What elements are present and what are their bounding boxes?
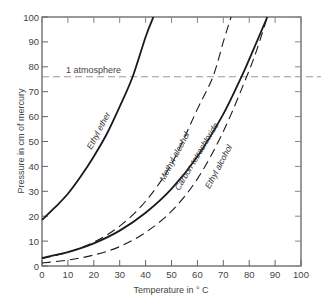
x-tick-label: 40 (140, 269, 151, 280)
y-tick-label: 70 (28, 86, 39, 97)
y-tick-label: 20 (28, 211, 39, 222)
ethyl-ether-curve (42, 17, 153, 220)
x-tick-label: 50 (166, 269, 177, 280)
x-tick-label: 0 (39, 269, 44, 280)
y-tick-label: 90 (28, 36, 39, 47)
y-tick-label: 80 (28, 61, 39, 72)
plot-axes: 0102030405060708090100010203040506070809… (23, 12, 321, 281)
ethyl-alcohol-curve (42, 17, 267, 263)
vapor-pressure-chart: 0102030405060708090100010203040506070809… (0, 0, 322, 303)
y-tick-label: 10 (28, 236, 39, 247)
x-tick-label: 30 (114, 269, 125, 280)
atmosphere-label: 1 atmosphere (66, 65, 121, 75)
y-tick-label: 50 (28, 136, 39, 147)
x-tick-label: 70 (218, 269, 229, 280)
plot-frame (42, 17, 301, 266)
x-tick-label: 60 (192, 269, 203, 280)
y-axis-title: Pressure in cm of mercury (16, 88, 26, 194)
x-tick-label: 90 (270, 269, 281, 280)
y-tick-label: 40 (28, 161, 39, 172)
x-tick-label: 100 (293, 269, 309, 280)
carbon-tetrachloride-curve (42, 17, 267, 258)
y-tick-label: 100 (23, 12, 39, 23)
ethyl-alcohol-label: Ethyl alcohol (203, 142, 235, 190)
x-axis-title: Temperature in ° C (133, 285, 209, 295)
x-tick-label: 80 (244, 269, 255, 280)
y-tick-label: 0 (34, 261, 39, 272)
y-tick-label: 60 (28, 111, 39, 122)
plot-labels: 1 atmosphere Temperature in ° C Pressure… (16, 65, 235, 295)
y-tick-label: 30 (28, 186, 39, 197)
x-tick-label: 10 (63, 269, 74, 280)
x-tick-label: 20 (89, 269, 100, 280)
plot-curves (42, 17, 267, 263)
